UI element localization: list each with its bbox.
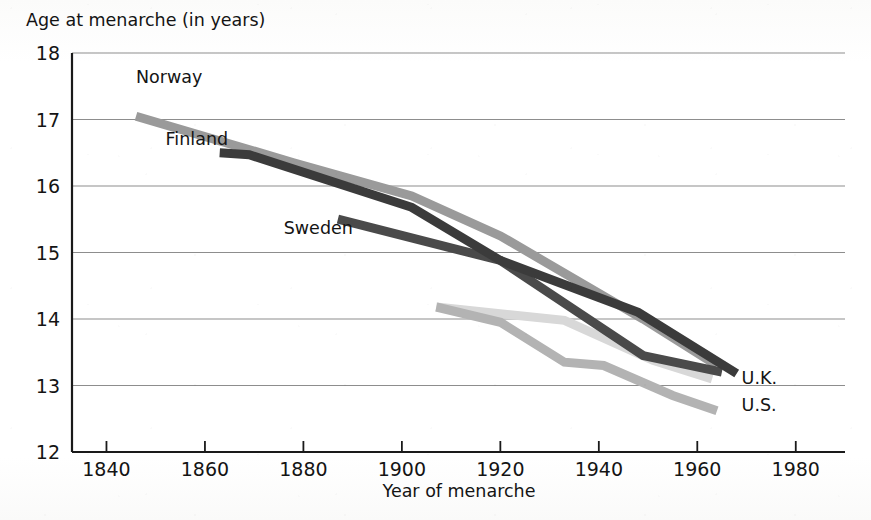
y-tick-label: 13 xyxy=(36,375,60,397)
x-tick-label: 1960 xyxy=(673,458,721,480)
x-tick-marks xyxy=(106,441,795,452)
y-tick-label: 14 xyxy=(36,308,60,330)
y-tick-label: 17 xyxy=(36,109,60,131)
x-tick-label: 1880 xyxy=(279,458,327,480)
x-tick-label: 1980 xyxy=(772,458,820,480)
series-line-sweden xyxy=(338,219,722,372)
series-label-sweden: Sweden xyxy=(284,218,353,238)
x-tick-label: 1920 xyxy=(476,458,524,480)
series-label-norway: Norway xyxy=(136,67,202,87)
series-lines xyxy=(136,116,737,411)
x-tick-labels: 18401860188019001920194019601980 xyxy=(82,458,820,480)
y-tick-labels: 12131415161718 xyxy=(36,42,60,463)
x-tick-label: 1900 xyxy=(378,458,426,480)
x-tick-label: 1840 xyxy=(82,458,130,480)
y-tick-label: 15 xyxy=(36,242,60,264)
chart-figure: Age at menarche (in years) 1213141516171… xyxy=(0,0,871,520)
series-label-uk: U.K. xyxy=(742,368,777,388)
y-tick-label: 18 xyxy=(36,42,60,64)
series-label-finland: Finland xyxy=(166,129,229,149)
x-tick-label: 1860 xyxy=(181,458,229,480)
y-axis-title: Age at menarche (in years) xyxy=(26,10,265,30)
y-tick-label: 12 xyxy=(36,441,60,463)
x-axis-title: Year of menarche xyxy=(382,481,536,501)
line-chart-canvas: Age at menarche (in years) 1213141516171… xyxy=(0,0,871,520)
y-tick-label: 16 xyxy=(36,175,60,197)
x-tick-label: 1940 xyxy=(575,458,623,480)
series-label-us: U.S. xyxy=(742,395,777,415)
